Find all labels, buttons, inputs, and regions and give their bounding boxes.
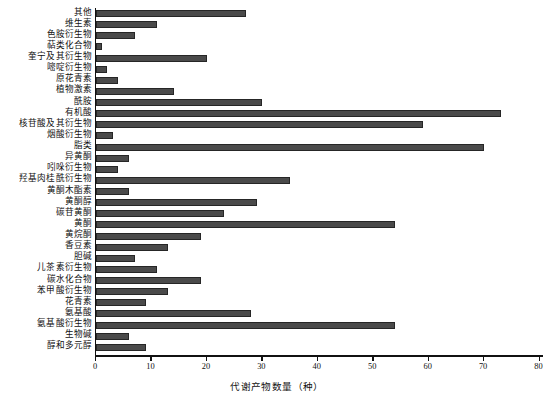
bar-row: 烟酸衍生物	[96, 131, 543, 142]
bar	[96, 322, 395, 329]
bar-row: 儿茶素衍生物	[96, 265, 543, 276]
x-tick-label: 30	[257, 362, 265, 371]
category-label: 花青素	[65, 296, 92, 307]
category-label: 原花青素	[56, 73, 92, 84]
bar	[96, 333, 129, 340]
plot-area: 其他维生素色胺衍生物萜类化合物奎宁及其衍生物嘧啶衍生物原花青素植物激素酰胺有机酸…	[95, 8, 543, 355]
bar-chart: 其他维生素色胺衍生物萜类化合物奎宁及其衍生物嘧啶衍生物原花青素植物激素酰胺有机酸…	[0, 0, 554, 372]
bar	[96, 155, 129, 162]
x-tick-label: 10	[146, 362, 154, 371]
x-tick	[539, 355, 540, 361]
bar	[96, 210, 224, 217]
bar	[96, 288, 168, 295]
category-label: 有机酸	[65, 107, 92, 118]
category-label: 黄酮木酯素	[47, 185, 93, 196]
bar-row: 奎宁及其衍生物	[96, 54, 543, 65]
x-tick	[372, 355, 373, 361]
category-label: 吲哚衍生物	[47, 162, 93, 173]
bar	[96, 10, 246, 17]
bar-row: 植物激素	[96, 87, 543, 98]
category-label: 核苷酸及其衍生物	[19, 118, 92, 129]
bar-row: 碳水化合物	[96, 276, 543, 287]
x-tick	[206, 355, 207, 361]
bar	[96, 21, 157, 28]
bar	[96, 166, 118, 173]
bar-row: 氨基酸	[96, 309, 543, 320]
bar-row: 黄酮	[96, 220, 543, 231]
bar-row: 维生素	[96, 20, 543, 31]
bar	[96, 310, 251, 317]
bar	[96, 277, 201, 284]
category-label: 氨基酸	[65, 307, 92, 318]
bar-row: 有机酸	[96, 109, 543, 120]
bar-row: 氨基酸衍生物	[96, 321, 543, 332]
bar-row: 苯甲酸衍生物	[96, 287, 543, 298]
category-label: 奎宁及其衍生物	[28, 51, 92, 62]
category-label: 黄酮	[74, 218, 92, 229]
bar-row: 羟基肉桂酰衍生物	[96, 176, 543, 187]
category-label: 黄烷酮	[65, 229, 92, 240]
bar	[96, 121, 423, 128]
category-label: 氨基酸衍生物	[37, 318, 92, 329]
bar	[96, 188, 129, 195]
category-label: 植物激素	[56, 84, 92, 95]
category-label: 碳苷黄酮	[56, 207, 92, 218]
bar-row: 脂类	[96, 143, 543, 154]
category-label: 嘧啶衍生物	[47, 62, 93, 73]
category-label: 酰胺	[74, 96, 92, 107]
x-tick	[150, 355, 151, 361]
bar	[96, 177, 290, 184]
x-tick-label: 40	[313, 362, 321, 371]
category-label: 烟酸衍生物	[47, 129, 93, 140]
bar-row: 胆碱	[96, 254, 543, 265]
bar	[96, 266, 157, 273]
bar-row: 花青素	[96, 298, 543, 309]
bar	[96, 244, 168, 251]
category-label: 其他	[74, 7, 92, 18]
x-tick-label: 80	[534, 362, 542, 371]
bar-row: 萜类化合物	[96, 42, 543, 53]
category-label: 胆碱	[74, 251, 92, 262]
category-label: 生物碱	[65, 329, 92, 340]
bar-row: 其他	[96, 9, 543, 20]
bar	[96, 55, 207, 62]
bar	[96, 110, 501, 117]
bar	[96, 144, 484, 151]
category-label: 碳水化合物	[47, 274, 93, 285]
bar-rows: 其他维生素色胺衍生物萜类化合物奎宁及其衍生物嘧啶衍生物原花青素植物激素酰胺有机酸…	[96, 8, 543, 355]
x-axis-title: 代谢产物数量（种）	[0, 379, 554, 393]
bar-row: 异黄酮	[96, 154, 543, 165]
category-label: 醇和多元醇	[47, 340, 93, 351]
bar	[96, 199, 257, 206]
bar	[96, 77, 118, 84]
bar	[96, 99, 262, 106]
bar	[96, 32, 135, 39]
x-tick-label: 70	[479, 362, 487, 371]
bar-row: 碳苷黄酮	[96, 209, 543, 220]
bar	[96, 88, 174, 95]
category-label: 维生素	[65, 18, 92, 29]
x-tick-label: 60	[423, 362, 431, 371]
x-tick	[261, 355, 262, 361]
bar	[96, 221, 395, 228]
bar-row: 核苷酸及其衍生物	[96, 120, 543, 131]
bar	[96, 255, 135, 262]
bar-row: 醇和多元醇	[96, 343, 543, 354]
x-tick	[95, 355, 96, 361]
chart-page: 其他维生素色胺衍生物萜类化合物奎宁及其衍生物嘧啶衍生物原花青素植物激素酰胺有机酸…	[0, 0, 554, 411]
bar	[96, 43, 102, 50]
bar-row: 黄烷酮	[96, 232, 543, 243]
category-label: 苯甲酸衍生物	[37, 285, 92, 296]
category-label: 萜类化合物	[47, 40, 93, 51]
x-axis: 01020304050607080	[95, 355, 543, 357]
bar	[96, 344, 146, 351]
x-tick-label: 50	[368, 362, 376, 371]
category-label: 异黄酮	[65, 151, 92, 162]
category-label: 儿茶素衍生物	[37, 262, 92, 273]
bar-row: 黄酮醇	[96, 198, 543, 209]
bar	[96, 132, 113, 139]
bar-row: 色胺衍生物	[96, 31, 543, 42]
bar-row: 嘧啶衍生物	[96, 65, 543, 76]
bar	[96, 66, 107, 73]
x-tick	[317, 355, 318, 361]
